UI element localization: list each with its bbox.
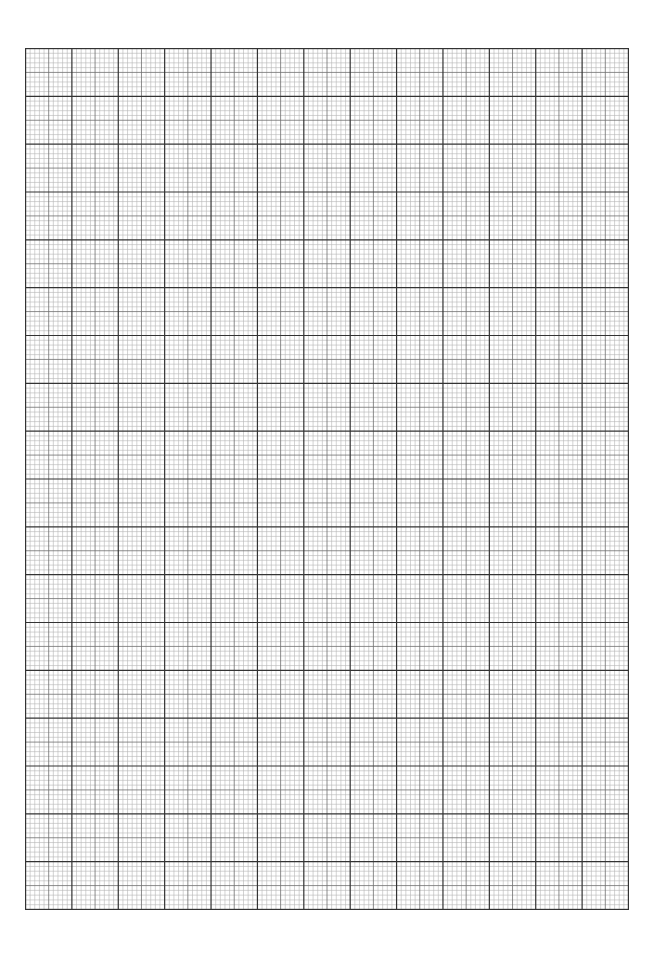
graph-grid — [25, 48, 629, 910]
graph-paper-sheet: graph paper — [0, 0, 649, 973]
